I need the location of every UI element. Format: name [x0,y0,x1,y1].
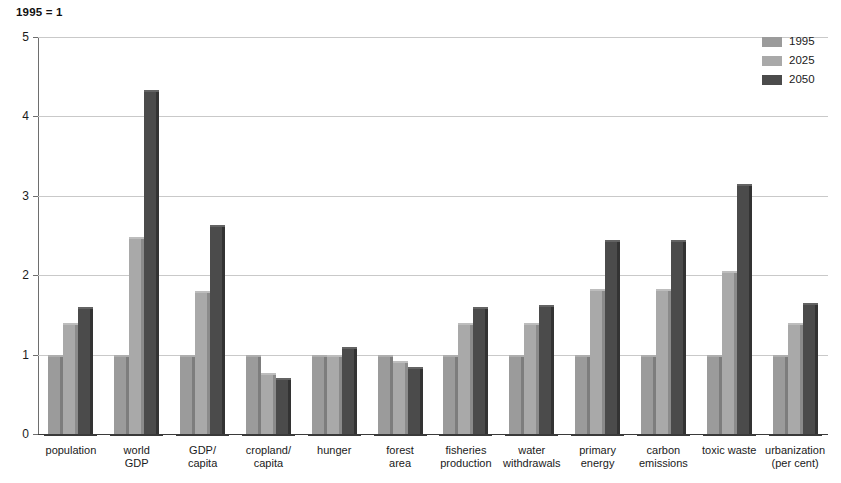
bar-cap [722,271,737,273]
bar-face [773,355,785,434]
bar-group [707,37,752,434]
bar-cap [656,289,671,291]
chart-legend: 199520252050 [762,32,832,89]
group-baseline-tick [637,434,690,436]
bar-face [707,355,719,434]
bar-face [393,361,405,434]
legend-item[interactable]: 1995 [762,32,832,51]
bar-cap [195,291,210,293]
x-axis-label: forest area [367,444,433,470]
bar-cap [524,323,539,325]
bar-side [222,225,225,434]
bar-side [683,240,686,434]
bar-face [656,289,668,434]
bar-face [590,289,602,434]
bar-face [261,373,273,434]
bar-rect [342,347,357,434]
group-baseline-tick [703,434,756,436]
legend-item[interactable]: 2050 [762,70,832,89]
bar-face [641,355,653,434]
bar-cap [144,90,159,92]
bar-cap [210,225,225,227]
legend-label: 2050 [789,74,815,85]
legend-swatch [762,75,782,85]
bar-cap [63,323,78,325]
bar-rect [641,355,656,434]
bar-rect [524,323,539,434]
bar-side [420,367,423,434]
legend-label: 1995 [789,36,815,47]
plot-area [38,37,828,434]
bar-cap [312,355,327,357]
bar-side [815,303,818,434]
bar-face [539,305,551,434]
bar-cap [443,355,458,357]
bar-side [90,307,93,434]
bar-face [78,307,90,434]
x-axis-label: world GDP [104,444,170,470]
bar-face [803,303,815,434]
bar-rect [575,355,590,434]
bar-rect [788,323,803,434]
bar-rect [605,240,620,434]
bar-cap [378,355,393,357]
legend-swatch [762,37,782,47]
bar-rect [722,271,737,434]
bar-cap [114,355,129,357]
bar-cap [803,303,818,305]
bar-rect [590,289,605,434]
bar-cap [327,355,342,357]
bar-face [195,291,207,434]
bar-face [605,240,617,434]
bar-face [246,355,258,434]
bar-cap [180,355,195,357]
x-axis-label: hunger [301,444,367,457]
bar-cap [78,307,93,309]
bar-cap [393,361,408,363]
bar-group [114,37,159,434]
legend-item[interactable]: 2025 [762,51,832,70]
group-baseline-tick [308,434,361,436]
chart-title: 1995 = 1 [16,6,63,18]
bar-rect [195,291,210,434]
bar-face [48,355,60,434]
bar-face [327,355,339,434]
bar-group [773,37,818,434]
bar-cap [605,240,620,242]
bar-face [509,355,521,434]
bar-face [722,271,734,434]
y-tick-label-3: 3 [5,189,29,203]
bar-rect [276,378,291,434]
bar-group [246,37,291,434]
bar-rect [78,307,93,434]
group-baseline-tick [374,434,427,436]
bar-cap [590,289,605,291]
bar-face [312,355,324,434]
bar-cap [671,240,686,242]
x-axis-label: primary energy [565,444,631,470]
bar-rect [210,225,225,434]
bar-rect [408,367,423,434]
bar-rect [458,323,473,434]
bar-group [641,37,686,434]
bar-side [551,305,554,434]
bar-rect [803,303,818,434]
bar-cap [261,373,276,375]
bar-face [473,307,485,434]
bar-group [180,37,225,434]
bar-rect [539,305,554,434]
bar-cap [539,305,554,307]
group-baseline-tick [110,434,163,436]
bar-cap [458,323,473,325]
y-tick-label-1: 1 [5,348,29,362]
bar-rect [378,355,393,434]
x-axis-label: water withdrawals [499,444,565,470]
bar-cap [408,367,423,369]
bar-group [575,37,620,434]
bar-cap [342,347,357,349]
bar-cap [48,355,63,357]
bar-group [48,37,93,434]
bar-rect [246,355,261,434]
bar-cap [473,307,488,309]
y-tick-label-4: 4 [5,109,29,123]
